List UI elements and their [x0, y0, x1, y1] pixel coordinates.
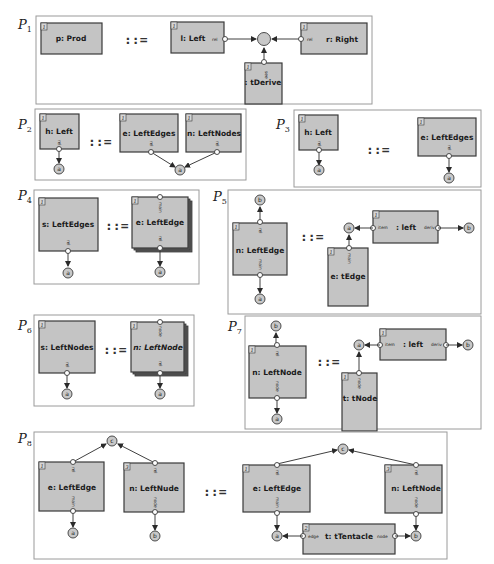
hyperedge-box[interactable]: 1 t: tNode node [342, 373, 377, 431]
svg-text:rel: rel [317, 141, 322, 147]
svg-text:rel: rel [414, 470, 419, 476]
svg-text:node: node [377, 534, 388, 539]
svg-text:node: node [414, 497, 419, 508]
svg-text:1: 1 [301, 116, 304, 122]
svg-text:2: 2 [304, 525, 308, 531]
svg-text:1: 1 [122, 115, 125, 121]
svg-text:rel: rel [65, 362, 70, 368]
hyperedge-box[interactable]: 1 h: Left rel [40, 114, 79, 149]
definition-symbol: ::= [124, 32, 148, 47]
hyperedge-box[interactable]: 1 e: LeftEdges rel [120, 114, 178, 152]
svg-text:::=: ::= [88, 134, 112, 149]
svg-text:l: Left: l: Left [181, 34, 206, 43]
hyperedge-box[interactable]: 1 n: LeftNodes rel [186, 114, 242, 152]
svg-text:node: node [357, 378, 362, 389]
svg-text:a: a [158, 390, 162, 397]
hyperedge-box[interactable]: 1 h: Left rel [299, 115, 338, 150]
tentacle-port [223, 37, 228, 42]
svg-text:1: 1 [173, 23, 176, 29]
svg-text:a: a [258, 295, 262, 302]
production-p3: P3 1 h: Left rel a ::= 1 e: LeftEdges re… [275, 110, 481, 187]
hyperedge-box-multi[interactable]: 1 e: LeftEdge main rel [132, 197, 192, 252]
svg-text:a: a [275, 532, 279, 539]
svg-text:1: 1 [41, 463, 44, 469]
hyperedge-box[interactable]: 1 s: LeftEdges rel [39, 198, 98, 251]
svg-text:e: LeftEdges: e: LeftEdges [123, 129, 176, 138]
svg-text:e: tEdge: e: tEdge [330, 272, 365, 281]
svg-text:1: 1 [133, 323, 136, 329]
hyperedge-box[interactable]: 1 l: Left rel [171, 22, 224, 53]
hyperedge-box[interactable]: 1 n: LeftNode rel node [249, 346, 306, 398]
svg-text:a: a [65, 390, 69, 397]
svg-text:s: LeftEdges: s: LeftEdges [42, 220, 95, 229]
tentacle-port [262, 60, 267, 65]
hyperedge-box-multi[interactable]: 1 n: LeftNode node rel [131, 322, 188, 376]
svg-text:s: LeftNodes: s: LeftNodes [40, 343, 94, 352]
production-p5: P5 b 1 n: LeftEdge rel main a ::= 1 item… [212, 189, 481, 314]
svg-text:P2: P2 [17, 117, 32, 134]
svg-text:e: LeftEdge: e: LeftEdge [48, 483, 96, 492]
hyperedge-box[interactable]: 3 n: LeftNude rel node [124, 463, 184, 512]
svg-text:edge: edge [308, 534, 319, 539]
graph-node[interactable] [258, 33, 271, 46]
svg-text:a: a [66, 269, 70, 276]
hyperedge-box[interactable]: 1 n: LeftEdge rel main [233, 223, 287, 275]
svg-text:main: main [258, 259, 263, 270]
svg-text:P3: P3 [275, 117, 290, 134]
svg-text:1: 1 [247, 64, 250, 70]
svg-text:n: LeftEdge: n: LeftEdge [236, 246, 285, 255]
svg-text:e: LeftEdge: e: LeftEdge [253, 484, 301, 493]
svg-text:P5: P5 [212, 189, 227, 206]
svg-text:1: 1 [42, 115, 45, 121]
svg-text:c: c [341, 445, 344, 452]
production-p4: P4 1 s: LeftEdges rel a ::= 1 e: LeftEdg… [17, 188, 199, 284]
svg-text:deriv: deriv [431, 342, 442, 347]
svg-text:: left: : left [396, 223, 417, 232]
production-label: P1 [17, 17, 32, 34]
hyperedge-box[interactable]: 1 e: tEdge main [328, 248, 368, 306]
svg-text:b: b [153, 532, 157, 539]
svg-text:main: main [347, 253, 352, 264]
svg-text:a: a [347, 224, 351, 231]
hyperedge-box[interactable]: 1 rel r: Right [301, 23, 367, 54]
hyperedge-box[interactable]: 1 see : tDerive [245, 63, 282, 104]
svg-text:rel: rel [57, 140, 62, 146]
svg-text:1: 1 [188, 115, 191, 121]
svg-text:a: a [275, 415, 279, 422]
svg-text:rel: rel [158, 361, 163, 367]
svg-text:rel: rel [66, 240, 71, 246]
hyperedge-box[interactable]: 1 p: Prod [41, 23, 102, 54]
svg-text:: tDerive: : tDerive [245, 78, 282, 87]
svg-text:::=: ::= [300, 229, 324, 244]
svg-text:h: Left: h: Left [304, 128, 332, 137]
hyperedge-box[interactable]: 1 e: LeftEdges rel [418, 118, 476, 156]
svg-text:1: 1 [330, 249, 333, 255]
hyperedge-box[interactable]: 1 item : left deriv [373, 211, 438, 243]
svg-text:rel: rel [212, 37, 218, 42]
svg-text:b: b [466, 341, 470, 348]
production-p7: P7 b 1 n: LeftNode rel node a ::= 1 item… [227, 316, 481, 431]
hyperedge-box[interactable]: 1 s: LeftNodes rel [39, 321, 95, 373]
svg-text:node: node [153, 497, 158, 508]
svg-text:r: Right: r: Right [326, 35, 358, 44]
hyperedge-box[interactable]: 2 edge t: tTentacle node [303, 524, 395, 554]
hyperedge-box[interactable]: 1 e: LeftEdge rel main [39, 462, 104, 511]
svg-text:b: b [414, 532, 418, 539]
svg-text:rel: rel [71, 467, 76, 473]
hyperedge-box[interactable]: 1 e: LeftEdge rel main [243, 465, 310, 512]
svg-text:n: LeftNode: n: LeftNode [391, 484, 441, 493]
svg-text:1: 1 [382, 330, 385, 336]
svg-text:b: b [467, 224, 471, 231]
svg-text:1: 1 [245, 466, 248, 472]
svg-text:::=: ::= [366, 142, 390, 157]
hyperedge-box[interactable]: 1 item : left deriv [380, 329, 446, 360]
svg-text:rel: rel [158, 236, 163, 242]
svg-text:1: 1 [344, 374, 347, 380]
svg-text:1: 1 [134, 198, 137, 204]
hyperedge-box[interactable]: 3 n: LeftNode rel node [385, 465, 442, 513]
svg-text:::=: ::= [105, 218, 129, 233]
svg-text:a: a [357, 341, 361, 348]
svg-text:rel: rel [149, 141, 154, 147]
svg-text:b: b [274, 322, 278, 329]
svg-text:h: Left: h: Left [45, 127, 73, 136]
